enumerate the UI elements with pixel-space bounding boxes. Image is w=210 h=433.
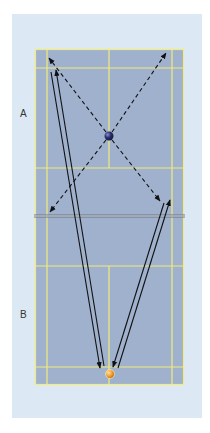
side-a-label: A [20, 108, 27, 119]
player-b-marker [106, 370, 115, 379]
badminton-court-diagram [0, 0, 210, 433]
side-b-label: B [20, 309, 27, 320]
player-a-marker [105, 132, 114, 141]
net [34, 215, 185, 217]
